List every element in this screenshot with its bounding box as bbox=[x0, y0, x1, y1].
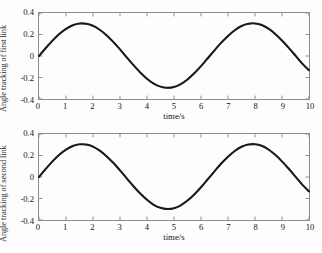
y-axis-title: Angle tracking of first link bbox=[0, 98, 8, 112]
x-tick-label: 8 bbox=[253, 102, 257, 111]
y-tick-label: 0 bbox=[30, 52, 34, 61]
x-tick-label: 6 bbox=[199, 102, 203, 111]
y-tick-label: 0.4 bbox=[23, 129, 34, 138]
x-tick-label: 1 bbox=[63, 223, 67, 232]
y-tick-label: -0.2 bbox=[20, 74, 34, 83]
plot-svg bbox=[39, 13, 309, 99]
y-tick-label: 0.2 bbox=[23, 30, 34, 39]
x-tick-label: 8 bbox=[253, 223, 257, 232]
series-desired-line bbox=[39, 144, 309, 209]
curve-layer bbox=[39, 13, 309, 99]
x-tick-label: 3 bbox=[117, 223, 121, 232]
y-axis-title: Angle tracking of second link bbox=[0, 228, 8, 242]
y-axis-ticks bbox=[39, 134, 309, 220]
x-tick-label: 4 bbox=[145, 102, 149, 111]
x-tick-label: 7 bbox=[226, 102, 230, 111]
x-tick-label: 4 bbox=[145, 223, 149, 232]
y-tick-label: -0.4 bbox=[20, 217, 34, 226]
x-tick-label: 9 bbox=[281, 223, 285, 232]
series-desired-line bbox=[39, 23, 309, 88]
y-tick-label: 0 bbox=[30, 173, 34, 182]
x-axis-title: time/s bbox=[38, 111, 310, 121]
x-tick-label: 6 bbox=[199, 223, 203, 232]
x-tick-label: 10 bbox=[306, 223, 315, 232]
y-axis-tick-labels: 0.40.20-0.2-0.4 bbox=[12, 0, 34, 124]
x-tick-label: 2 bbox=[90, 102, 94, 111]
y-tick-label: -0.2 bbox=[20, 195, 34, 204]
x-tick-label: 10 bbox=[306, 102, 315, 111]
x-axis-title: time/s bbox=[38, 232, 310, 242]
plot-area bbox=[38, 133, 310, 221]
chart-panel-second-link: Angle tracking of second link 0.40.20-0.… bbox=[0, 126, 322, 253]
plot-svg bbox=[39, 134, 309, 220]
curve-layer bbox=[39, 134, 309, 220]
x-tick-label: 1 bbox=[63, 102, 67, 111]
x-tick-label: 5 bbox=[172, 102, 176, 111]
x-tick-label: 0 bbox=[36, 102, 40, 111]
x-tick-label: 9 bbox=[281, 102, 285, 111]
y-tick-label: -0.4 bbox=[20, 96, 34, 105]
x-tick-label: 5 bbox=[172, 223, 176, 232]
figure-canvas: Angle tracking of first link 0.40.20-0.2… bbox=[0, 0, 322, 253]
series-actual-line bbox=[39, 23, 309, 88]
x-tick-label: 2 bbox=[90, 223, 94, 232]
series-actual-line bbox=[39, 144, 309, 209]
x-axis-ticks bbox=[39, 134, 309, 220]
x-tick-label: 3 bbox=[117, 102, 121, 111]
chart-panel-first-link: Angle tracking of first link 0.40.20-0.2… bbox=[0, 0, 322, 124]
x-tick-label: 0 bbox=[36, 223, 40, 232]
plot-area bbox=[38, 12, 310, 100]
y-tick-label: 0.4 bbox=[23, 8, 34, 17]
x-tick-label: 7 bbox=[226, 223, 230, 232]
y-tick-label: 0.2 bbox=[23, 151, 34, 160]
y-axis-tick-labels: 0.40.20-0.2-0.4 bbox=[12, 126, 34, 253]
